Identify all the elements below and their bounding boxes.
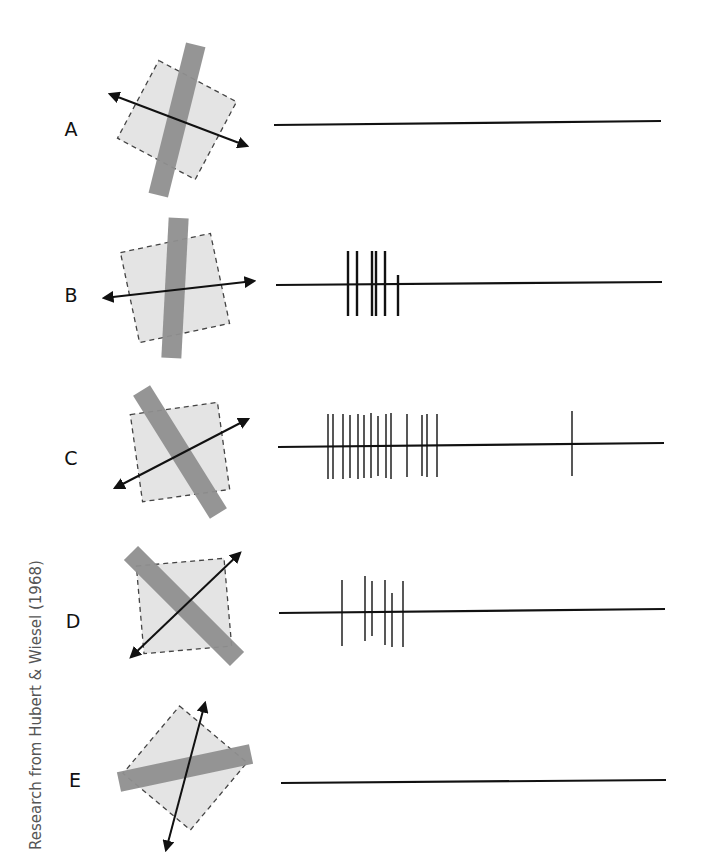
response-trace — [276, 282, 662, 285]
row-label: B — [64, 284, 77, 306]
stimulus-row-d: D — [66, 546, 665, 666]
stimulus-row-e: E — [69, 703, 666, 850]
stimulus-row-b: B — [64, 218, 662, 359]
response-trace — [274, 121, 661, 125]
stimulus-row-c: C — [64, 385, 664, 519]
stimulus-row-a: A — [65, 42, 662, 197]
response-trace — [278, 443, 664, 447]
row-label: A — [65, 118, 78, 140]
credit-caption: Research from Hubert & Wiesel (1968) — [27, 560, 45, 850]
response-trace — [279, 609, 665, 613]
response-trace — [281, 780, 666, 783]
orientation-tuning-figure: ABCDE Research from Hubert & Wiesel (196… — [0, 0, 703, 862]
row-label: D — [66, 610, 81, 632]
row-label: C — [64, 447, 77, 469]
row-label: E — [69, 769, 81, 791]
